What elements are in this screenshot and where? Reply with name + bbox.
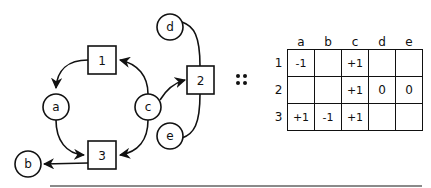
matrix-cell	[396, 104, 423, 131]
place-b: b	[15, 151, 41, 177]
column-header: e	[396, 34, 423, 50]
matrix-cell: -1	[315, 104, 342, 131]
incidence-matrix: a b c d e 1 -1 +1 2 +1 0 0	[270, 34, 423, 131]
place-c-label: c	[145, 100, 152, 114]
place-a-label: a	[52, 100, 59, 114]
matrix-cell	[288, 77, 315, 104]
matrix-cell: +1	[342, 50, 369, 77]
matrix-cell: +1	[342, 104, 369, 131]
arc-a-to-3	[56, 120, 84, 155]
bottom-divider	[50, 185, 422, 187]
place-e: e	[157, 123, 183, 149]
matrix-cell: -1	[288, 50, 315, 77]
column-header: a	[288, 34, 315, 50]
arc-c-to-1	[120, 60, 148, 94]
transition-2-label: 2	[197, 74, 205, 88]
transition-3: 3	[88, 141, 116, 169]
matrix-cell: 0	[369, 77, 396, 104]
matrix-corner	[270, 34, 288, 50]
matrix-row: 1 -1 +1	[270, 50, 423, 77]
place-d: d	[157, 14, 183, 40]
transition-3-label: 3	[98, 149, 106, 163]
row-header: 3	[270, 104, 288, 131]
column-header: c	[342, 34, 369, 50]
row-header: 2	[270, 77, 288, 104]
matrix-cell	[369, 104, 396, 131]
matrix-header-row: a b c d e	[270, 34, 423, 50]
transition-1-label: 1	[98, 54, 106, 68]
arc-3-to-b	[44, 163, 88, 164]
transition-1: 1	[88, 46, 116, 74]
place-e-label: e	[166, 129, 173, 143]
arc-c-to-3	[120, 120, 148, 155]
equivalence-symbol	[236, 74, 248, 85]
arc-c-to-2	[160, 80, 185, 100]
arc-1-to-a	[56, 60, 88, 88]
matrix-cell	[315, 77, 342, 104]
matrix-row: 3 +1 -1 +1	[270, 104, 423, 131]
row-header: 1	[270, 50, 288, 77]
place-b-label: b	[24, 157, 32, 171]
matrix-cell	[369, 50, 396, 77]
column-header: d	[369, 34, 396, 50]
matrix-cell	[396, 50, 423, 77]
place-a: a	[43, 94, 69, 120]
column-header: b	[315, 34, 342, 50]
matrix-cell: +1	[288, 104, 315, 131]
matrix-row: 2 +1 0 0	[270, 77, 423, 104]
place-d-label: d	[166, 20, 174, 34]
place-c: c	[135, 94, 161, 120]
matrix-cell: 0	[396, 77, 423, 104]
transition-2: 2	[187, 66, 214, 94]
matrix-cell	[315, 50, 342, 77]
matrix-cell: +1	[342, 77, 369, 104]
arc-d-to-2	[182, 22, 200, 66]
arc-e-to-2	[182, 94, 200, 138]
